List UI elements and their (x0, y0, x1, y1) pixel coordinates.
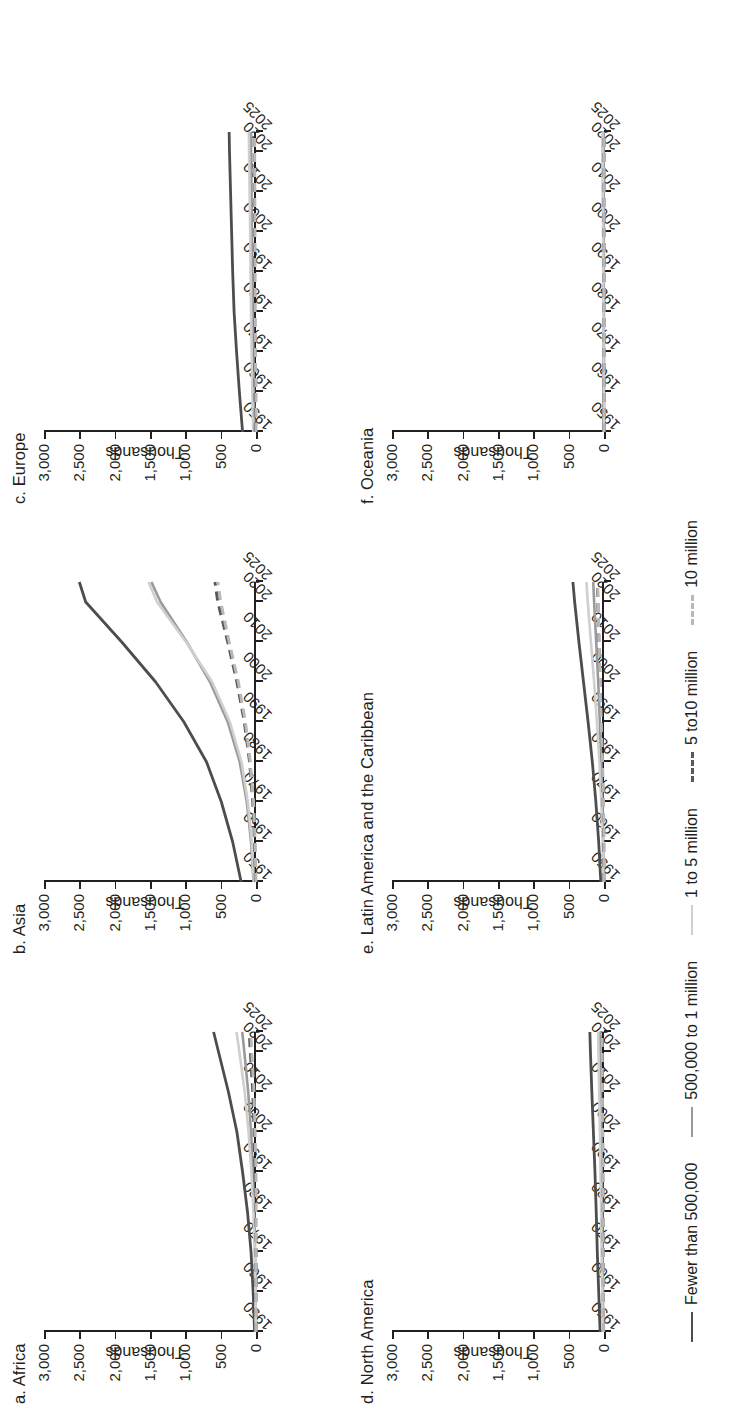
y-tick (392, 1332, 394, 1339)
y-tick-label: 500 (212, 444, 229, 469)
y-tick (79, 1332, 81, 1339)
plot-area: Thousands05001,0001,5002,0002,5003,00019… (388, 980, 656, 1410)
series-lines (44, 582, 256, 882)
chart-panel-africa: a. AfricaThousands05001,0001,5002,0002,5… (10, 980, 310, 1410)
axes: 05001,0001,5002,0002,5003,00019501960197… (44, 132, 256, 432)
legend-swatch-line-icon (691, 1107, 693, 1137)
y-tick-label: 1,000 (176, 444, 193, 482)
y-tick (221, 882, 223, 889)
plot-area: Thousands05001,0001,5002,0002,5003,00019… (40, 530, 308, 960)
chart-panel-asia: b. AsiaThousands05001,0001,5002,0002,500… (10, 530, 310, 960)
plot-area: Thousands05001,0001,5002,0002,5003,00019… (40, 80, 308, 510)
series-lines (392, 132, 604, 432)
y-tick-label: 0 (247, 894, 264, 902)
y-tick-label: 1,000 (176, 894, 193, 932)
y-tick-label: 2,000 (106, 1344, 123, 1382)
legend-label: 10 million (683, 520, 701, 588)
panel-title: a. Africa (10, 1343, 29, 1404)
chart-panel-north-america: d. North AmericaThousands05001,0001,5002… (358, 980, 658, 1410)
legend-item: 1 to 5 million (683, 808, 701, 935)
y-tick (427, 882, 429, 889)
legend-label: 500,000 to 1 million (683, 961, 701, 1100)
series-lines (44, 132, 256, 432)
axes: 05001,0001,5002,0002,5003,00019501960197… (392, 132, 604, 432)
y-tick (150, 1332, 152, 1339)
y-tick (150, 882, 152, 889)
y-tick (533, 432, 535, 439)
y-tick-label: 0 (247, 1344, 264, 1352)
legend-label: 1 to 5 million (683, 808, 701, 898)
series-line (151, 582, 253, 882)
legend-swatch-line-icon (691, 752, 694, 782)
y-tick-label: 2,000 (454, 894, 471, 932)
y-tick-label: 2,500 (418, 444, 435, 482)
series-lines (44, 1032, 256, 1332)
legend-item: 5 to10 million (683, 651, 701, 782)
y-tick (392, 882, 394, 889)
y-tick-label: 0 (595, 894, 612, 902)
axes: 05001,0001,5002,0002,5003,00019501960197… (392, 1032, 604, 1332)
y-tick-label: 1,500 (141, 894, 158, 932)
legend-item: 500,000 to 1 million (683, 961, 701, 1137)
series-lines (392, 582, 604, 882)
y-tick (221, 1332, 223, 1339)
y-tick (427, 432, 429, 439)
y-tick-label: 500 (560, 1344, 577, 1369)
six-panel-line-chart-figure: a. AfricaThousands05001,0001,5002,0002,5… (0, 0, 730, 1428)
y-tick (115, 432, 117, 439)
y-tick-label: 1,500 (489, 894, 506, 932)
y-tick (427, 1332, 429, 1339)
plot-area: Thousands05001,0001,5002,0002,5003,00019… (388, 80, 656, 510)
y-tick (185, 1332, 187, 1339)
legend-swatch-line-icon (691, 1312, 693, 1342)
y-tick (44, 432, 46, 439)
y-tick-label: 500 (560, 444, 577, 469)
y-tick-label: 1,500 (489, 1344, 506, 1382)
plot-area: Thousands05001,0001,5002,0002,5003,00019… (40, 980, 308, 1410)
y-tick-label: 1,000 (524, 1344, 541, 1382)
y-tick (604, 432, 606, 439)
y-tick-label: 500 (212, 1344, 229, 1369)
y-tick-label: 2,500 (418, 1344, 435, 1382)
y-tick-label: 0 (247, 444, 264, 452)
legend-swatch-line-icon (691, 595, 694, 625)
axes: 05001,0001,5002,0002,5003,00019501960197… (44, 1032, 256, 1332)
y-tick (44, 1332, 46, 1339)
y-tick (185, 882, 187, 889)
y-tick (569, 1332, 571, 1339)
y-tick-label: 2,500 (418, 894, 435, 932)
y-tick (185, 432, 187, 439)
legend-label: 5 to10 million (683, 651, 701, 745)
y-tick-label: 3,000 (35, 444, 52, 482)
y-tick-label: 2,000 (106, 444, 123, 482)
y-tick (498, 432, 500, 439)
rotated-figure-canvas: a. AfricaThousands05001,0001,5002,0002,5… (0, 0, 730, 1428)
chart-panel-latin-america-caribbean: e. Latin America and the CaribbeanThousa… (358, 530, 658, 960)
y-tick (498, 1332, 500, 1339)
y-tick (569, 882, 571, 889)
series-line (79, 582, 241, 882)
panel-title: e. Latin America and the Caribbean (358, 692, 377, 954)
chart-panel-oceania: f. OceaniaThousands05001,0001,5002,0002,… (358, 80, 658, 510)
y-tick-label: 1,000 (524, 444, 541, 482)
series-line (214, 1032, 255, 1332)
y-tick-label: 2,000 (106, 894, 123, 932)
chart-panel-europe: c. EuropeThousands05001,0001,5002,0002,5… (10, 80, 310, 510)
y-tick-label: 3,000 (383, 894, 400, 932)
legend-swatch-line-icon (691, 905, 693, 935)
axes: 05001,0001,5002,0002,5003,00019501960197… (392, 582, 604, 882)
y-tick-label: 1,000 (524, 894, 541, 932)
y-tick (463, 1332, 465, 1339)
series-line (255, 132, 256, 432)
y-tick-label: 0 (595, 1344, 612, 1352)
y-tick-label: 1,500 (141, 444, 158, 482)
y-tick-label: 500 (212, 894, 229, 919)
panel-title: b. Asia (10, 904, 29, 954)
y-tick-label: 2,000 (454, 1344, 471, 1382)
y-tick (569, 432, 571, 439)
legend-item: Fewer than 500,000 (683, 1163, 701, 1342)
y-tick-label: 2,000 (454, 444, 471, 482)
scanned-figure-page: a. AfricaThousands05001,0001,5002,0002,5… (0, 0, 730, 1428)
panel-title: f. Oceania (358, 428, 377, 504)
y-tick-label: 1,500 (141, 1344, 158, 1382)
